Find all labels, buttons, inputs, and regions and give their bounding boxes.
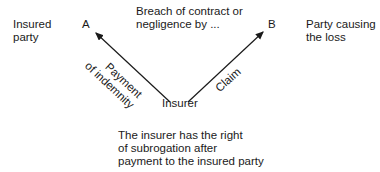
node-a-label: A — [82, 18, 90, 31]
insurer-label: Insurer — [162, 97, 198, 110]
party-causing-label: Party causing the loss — [306, 18, 376, 44]
node-b-label: B — [268, 18, 276, 31]
breach-label: Breach of contract or negligence by ... — [136, 5, 243, 31]
claim-arrow — [188, 32, 263, 102]
subrogation-note: The insurer has the right of subrogation… — [118, 129, 264, 168]
insured-party-label: Insured party — [13, 18, 51, 44]
